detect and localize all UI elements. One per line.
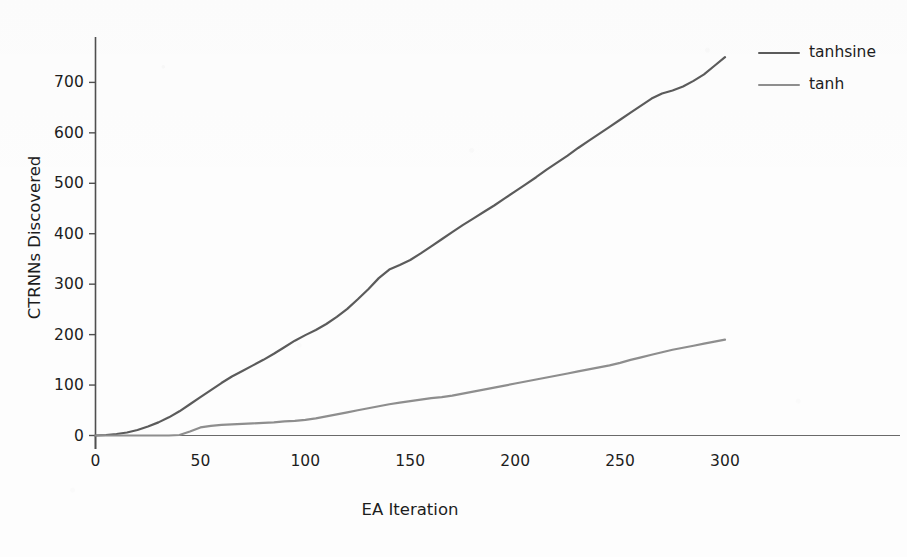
y-axis-title: CTRNNs Discovered [25, 108, 44, 368]
x-tick-label: 50 [160, 452, 240, 470]
legend-item-tanhsine[interactable]: tanhsine [758, 44, 876, 62]
y-tick-label: 100 [18, 376, 84, 394]
legend-line-swatch [758, 84, 800, 86]
series-line-tanh [96, 340, 726, 436]
legend-label: tanhsine [809, 45, 876, 61]
legend-item-tanh[interactable]: tanh [758, 76, 876, 94]
y-tick-label: 700 [18, 73, 84, 91]
x-tick-label: 200 [475, 452, 555, 470]
x-tick-label: 0 [56, 452, 136, 470]
legend-line-swatch [758, 52, 800, 54]
x-tick-label: 100 [265, 452, 345, 470]
x-tick-label: 300 [685, 452, 765, 470]
y-axis-ticks [89, 82, 96, 449]
x-tick-label: 150 [370, 452, 450, 470]
series-line-tanhsine [96, 57, 726, 435]
x-tick-label: 250 [580, 452, 660, 470]
chart-figure: 0100200300400500600700 05010015020025030… [0, 0, 907, 557]
chart-legend: tanhsinetanh [758, 44, 876, 94]
data-series-layer [96, 57, 726, 435]
y-tick-label: 0 [18, 427, 84, 445]
legend-label: tanh [809, 77, 844, 93]
x-axis-title: EA Iteration [0, 500, 820, 519]
